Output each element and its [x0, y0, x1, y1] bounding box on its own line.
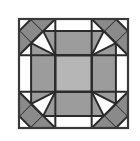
figure-root [0, 0, 140, 141]
center-square [55, 55, 91, 91]
geometric-net-diagram [0, 0, 140, 141]
